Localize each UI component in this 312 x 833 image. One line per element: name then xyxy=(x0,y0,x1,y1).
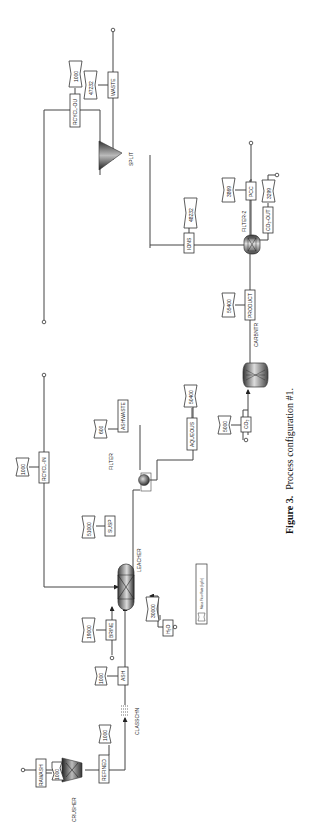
stream-aqueous[interactable]: AQUEOUS 50400 xyxy=(184,385,197,450)
stream-lines xyxy=(23,30,275,770)
stream-name: BRINE xyxy=(108,622,114,638)
flow-value: 50400 xyxy=(188,390,194,404)
stream-name: PCC xyxy=(248,186,254,197)
stream-rcycl-ou[interactable]: RCYCL-OU 1000 xyxy=(69,61,82,127)
stream-name: H₂O xyxy=(165,624,171,634)
stream-pcc[interactable]: PCC 3869 xyxy=(222,178,256,202)
stream-name: CO₂ xyxy=(243,420,249,430)
rcycl-ou-sink-icon xyxy=(42,320,46,324)
rcycl-in-source-icon xyxy=(42,373,46,377)
stream-rcycl-in[interactable]: RCYCL-IN 1000 xyxy=(16,452,49,483)
flow-value: 5000 xyxy=(222,421,228,432)
filter-unit[interactable]: FILTER xyxy=(108,453,151,491)
stream-co2[interactable]: CO₂ 5000 xyxy=(218,416,251,434)
stream-rawash[interactable]: RAWASH 1000 xyxy=(36,759,64,787)
filter-icon xyxy=(139,475,150,486)
rawash-source-icon xyxy=(21,768,25,772)
brine-source-icon xyxy=(110,656,114,660)
waste-sink-icon xyxy=(111,28,115,32)
stream-name: RCYCL-OU xyxy=(72,98,78,125)
stream-ash[interactable]: ASH 1000 xyxy=(95,667,128,685)
stream-name: WASTE xyxy=(110,78,116,96)
stream-refined[interactable]: REFINED 1000 xyxy=(99,725,111,783)
co2-source-icon xyxy=(244,438,248,442)
stream-co2-out[interactable]: CO₂-OUT 3299 xyxy=(262,180,275,233)
flow-flag-icon xyxy=(198,613,205,621)
co2-out-sink-icon xyxy=(275,173,279,177)
stream-name: CO₂-OUT xyxy=(265,209,271,231)
stream-name: PRODUCT xyxy=(247,293,253,318)
stream-brine[interactable]: BRINE 19000 xyxy=(82,618,116,642)
flow-value: 48232 xyxy=(188,208,194,222)
carbonator-label: CARBNTR xyxy=(253,322,259,347)
h2o-source-icon xyxy=(173,625,177,629)
flow-value: 1000 xyxy=(54,769,60,780)
split-label: SPLIT xyxy=(128,152,134,166)
crusher-unit[interactable]: CRUSHER xyxy=(62,758,82,822)
stream-name: IONS xyxy=(186,237,192,250)
stream-name: REFINED xyxy=(101,759,107,781)
figure-caption: Figure 3.Process configuration #1. xyxy=(284,388,295,534)
carbonator-unit[interactable]: CARBNTR xyxy=(243,322,268,387)
leacher-label: LEACHER xyxy=(136,548,142,572)
filter-label: FILTER xyxy=(108,453,114,470)
stream-name: RCYCL-IN xyxy=(41,457,47,481)
caption-label: Figure 3. xyxy=(284,495,295,534)
stream-name: ASH xyxy=(120,670,126,681)
stream-name: RAWASH xyxy=(38,764,44,786)
classifier-label: CLASSCHN xyxy=(134,707,140,735)
crusher-label: CRUSHER xyxy=(71,797,77,822)
flow-value: 3299 xyxy=(266,188,272,199)
flow-value: 1000 xyxy=(20,464,26,475)
stream-name: ASHWASTE xyxy=(120,401,126,430)
stream-name: AQUEOUS xyxy=(189,421,195,447)
flow-value: 600 xyxy=(98,425,104,434)
split-icon xyxy=(99,141,122,170)
leacher-unit[interactable]: LEACHER xyxy=(118,548,142,610)
split-unit[interactable]: SPLIT xyxy=(99,141,134,170)
flow-value: 55400 xyxy=(226,299,232,313)
stream-product[interactable]: PRODUCT 55400 xyxy=(222,290,255,320)
classifier-unit[interactable]: CLASSCHN xyxy=(121,705,140,735)
stream-waste[interactable]: WASTE 47232 xyxy=(84,71,118,99)
flow-value: 47232 xyxy=(88,81,94,95)
legend: Mass Flow Rate (kg/hr) xyxy=(196,564,207,624)
pcc-sink-icon xyxy=(249,141,253,145)
stream-name: SUSP xyxy=(107,519,113,533)
flow-value: 30000 xyxy=(150,604,156,618)
legend-text: Mass Flow Rate (kg/hr) xyxy=(200,578,204,609)
stream-h2o[interactable]: H₂O 30000 xyxy=(146,597,173,636)
flow-value: 19000 xyxy=(86,625,92,639)
flow-value: 1000 xyxy=(98,673,104,684)
terminal-markers xyxy=(21,28,279,772)
caption: Figure 3.Process configuration #1. xyxy=(284,388,295,534)
process-flow-diagram: CRUSHER CLASSCHN LEACHER FILTER CARBNTR … xyxy=(0,0,312,833)
stream-ashwaste[interactable]: ASHWASTE 600 xyxy=(94,400,128,438)
flow-value: 1000 xyxy=(73,71,79,82)
flow-value: 51000 xyxy=(86,522,92,536)
caption-text: Process configuration #1. xyxy=(284,388,295,490)
flow-value: 3869 xyxy=(226,186,232,197)
filter2-label: FILTER-2 xyxy=(241,210,247,232)
stream-susp[interactable]: SUSP 51000 xyxy=(82,516,115,538)
flow-value: 1000 xyxy=(102,730,108,741)
